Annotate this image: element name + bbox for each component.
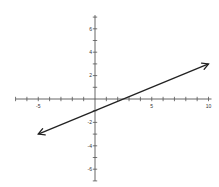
y-tick-label: -4 [88,143,93,149]
y-tick-label: -6 [88,166,93,172]
coordinate-plane: -5510642-2-4-6 [0,0,219,187]
axes [16,15,212,181]
y-tick-label: 2 [89,72,92,78]
x-tick-label: 10 [206,103,212,109]
y-tick-label: -2 [88,119,93,125]
y-tick-label: 6 [89,26,92,32]
x-tick-label: -5 [36,103,41,109]
plot-area: -5510642-2-4-6 [0,0,219,187]
x-tick-label: 5 [150,103,153,109]
y-tick-label: 4 [89,49,92,55]
